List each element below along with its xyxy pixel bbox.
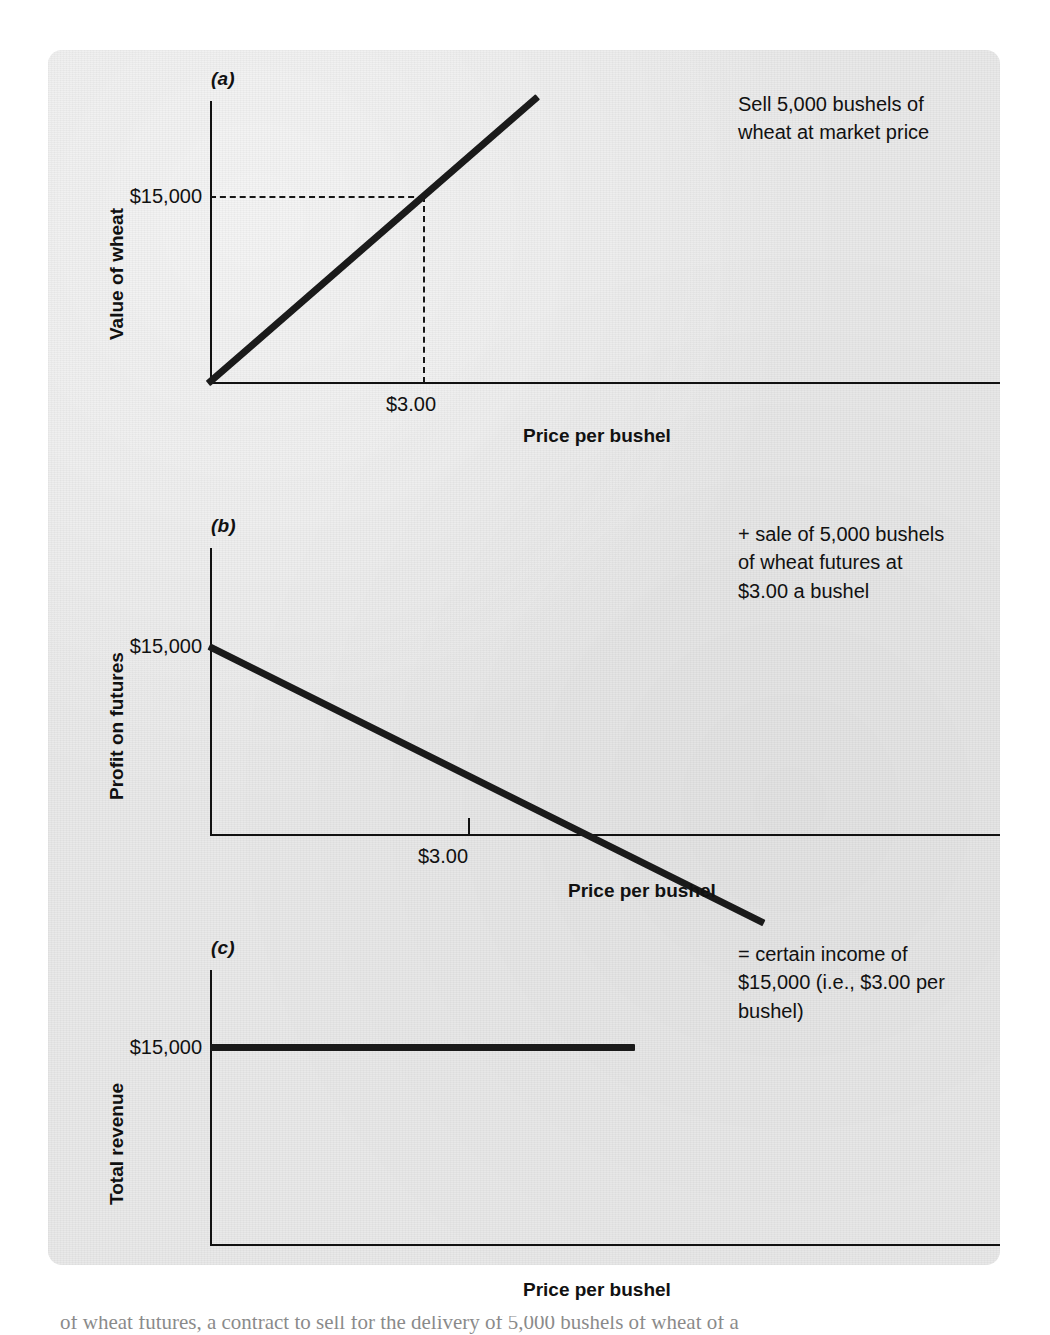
annotation-note-c: = certain income of $15,000 (i.e., $3.00… — [738, 940, 1013, 1025]
x-tick-label-a: $3.00 — [386, 393, 436, 416]
x-axis-title-c: Price per bushel — [523, 1279, 671, 1301]
x-tick-label-b: $3.00 — [418, 845, 468, 868]
data-line-total-revenue — [210, 1044, 635, 1051]
y-axis-title-c: Total revenue — [106, 1083, 128, 1205]
y-tick-label-b: $15,000 — [60, 635, 202, 658]
guideline-vertical-300-a — [423, 196, 425, 383]
y-tick-label-a: $15,000 — [60, 185, 202, 208]
panel-letter-c: (c) — [211, 937, 235, 959]
y-axis-title-b: Profit on futures — [106, 652, 128, 800]
x-axis-a — [210, 382, 1000, 384]
data-line-value-of-wheat — [206, 94, 540, 386]
chart-panel-b: (b) $15,000 $3.00 Profit on futures Pric… — [48, 460, 1000, 880]
y-axis-a — [210, 101, 212, 384]
y-tick-label-c: $15,000 — [60, 1036, 202, 1059]
chart-panel-c: (c) $15,000 Total revenue Price per bush… — [48, 880, 1000, 1265]
y-axis-b — [210, 548, 212, 836]
cut-off-caption: of wheat futures, a contract to sell for… — [60, 1316, 990, 1335]
x-axis-c — [210, 1244, 1000, 1246]
guideline-horizontal-15000-a — [210, 196, 424, 198]
figure-panel: (a) $15,000 $3.00 Value of wheat Price p… — [48, 50, 1000, 1265]
x-axis-title-a: Price per bushel — [523, 425, 671, 447]
y-axis-title-a: Value of wheat — [106, 208, 128, 340]
panel-letter-a: (a) — [211, 68, 235, 90]
chart-panel-a: (a) $15,000 $3.00 Value of wheat Price p… — [48, 50, 1000, 450]
panel-letter-b: (b) — [211, 515, 236, 537]
x-axis-b — [210, 834, 1000, 836]
x-tick-mark-300-b — [468, 818, 470, 836]
annotation-note-a: Sell 5,000 bushels of wheat at market pr… — [738, 90, 998, 147]
y-axis-c — [210, 970, 212, 1246]
annotation-note-b: + sale of 5,000 bushels of wheat futures… — [738, 520, 1008, 605]
caption-text: of wheat futures, a contract to sell for… — [60, 1316, 739, 1335]
